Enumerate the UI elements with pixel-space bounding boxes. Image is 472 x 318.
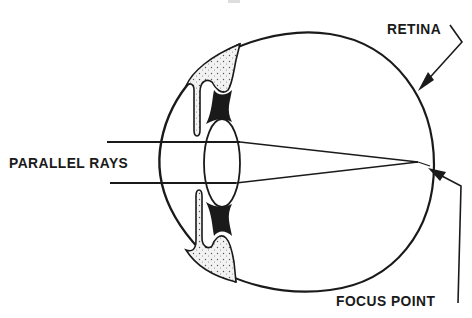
parallel-rays-label: PARALLEL RAYS xyxy=(9,154,128,171)
upper-iris-ciliary xyxy=(186,44,240,136)
retina-label: RETINA xyxy=(387,20,441,37)
ray-extension xyxy=(418,162,430,166)
focus-point-label: FOCUS POINT xyxy=(336,292,435,309)
upper-ciliary-region xyxy=(186,44,240,136)
focus-leader-line xyxy=(440,175,461,303)
light-rays xyxy=(107,142,430,183)
lower-ray-refracted xyxy=(236,162,418,183)
lens xyxy=(204,119,240,207)
upper-ray-refracted xyxy=(240,142,418,162)
focus-arrowhead-icon xyxy=(428,168,446,181)
